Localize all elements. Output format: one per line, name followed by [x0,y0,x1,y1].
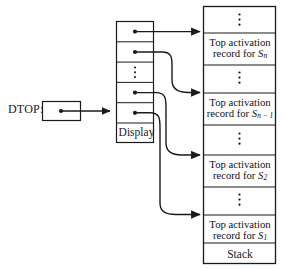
dtop-label: DTOP: [8,103,43,115]
stack-cell-record-s1: Top activation record for S1 [203,219,277,242]
dtop-box [43,102,111,121]
stack-display-diagram: DTOP: Display Stack Top activation recor… [0,0,285,270]
stack-vertical-dots-icon-2 [238,132,240,144]
stack-vertical-dots-icon-3 [238,193,240,205]
stack-label: Stack [204,249,276,261]
record-line-2: record for Sn − 1 [203,108,277,120]
record-line-2: record for S1 [203,230,277,242]
stack-vertical-dots-icon-0 [238,13,240,25]
stack-cell-record-sn: Top activation record for Sn [203,37,277,60]
stack-cell-record-sn-1: Top activation record for Sn − 1 [203,97,277,120]
display-vertical-dots-icon [134,66,136,78]
record-line-2: record for S2 [203,170,277,182]
stack-vertical-dots-icon-1 [238,71,240,83]
display-label: Display [118,127,155,139]
stack-cell-record-s2: Top activation record for S2 [203,159,277,182]
record-line-2: record for Sn [203,48,277,60]
display-box [117,22,154,143]
